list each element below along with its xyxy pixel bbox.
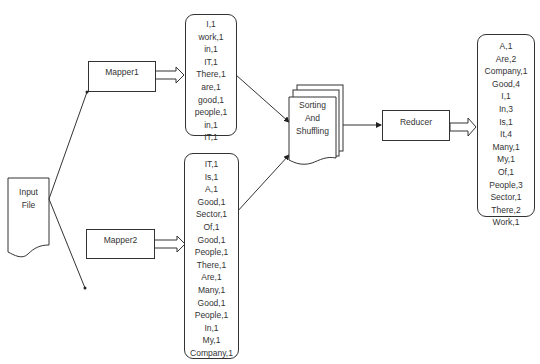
list-item: Are,2 — [496, 53, 516, 66]
list-item: There,2 — [491, 204, 520, 217]
list-item: Sector,1 — [196, 208, 227, 221]
list-item: In,3 — [499, 103, 513, 116]
block-arrow-reducer — [450, 118, 476, 136]
list-item: good,1 — [198, 94, 224, 107]
list-item: work,1 — [198, 31, 223, 44]
list-item: Sector,1 — [490, 191, 521, 204]
list-item: I,1 — [501, 90, 510, 103]
list-item: in,1 — [204, 43, 218, 56]
list-item: Is,1 — [499, 116, 513, 129]
mapper1-label: Mapper1 — [105, 67, 139, 77]
list-item: Good,1 — [198, 196, 226, 209]
mapper1-box: Mapper1 — [88, 61, 156, 92]
shuffle-label-line1: Sorting — [289, 99, 336, 112]
diagram-canvas — [0, 0, 540, 364]
input-file: Input File — [8, 186, 49, 212]
edge-input-to-mapper2 — [49, 199, 85, 288]
block-arrow-mapper1 — [155, 67, 184, 83]
list-item: IT,1 — [205, 158, 219, 171]
list-item: Of,1 — [203, 221, 219, 234]
list-item: There,1 — [197, 259, 226, 272]
list-item: It,4 — [500, 128, 512, 141]
list-item: IT,1 — [204, 56, 218, 69]
input-file-label-line1: Input — [8, 186, 49, 199]
list-item: In,1 — [204, 322, 218, 335]
list-item: Good,4 — [492, 78, 520, 91]
list-item: are,1 — [201, 81, 220, 94]
shuffle-label-line3: Shuffling — [289, 125, 336, 138]
list-item: A,1 — [205, 183, 218, 196]
edge-mapper1-list-to-shuffle — [236, 75, 289, 122]
reducer-label: Reducer — [400, 117, 432, 127]
shuffle-label-line2: And — [289, 112, 336, 125]
mapper2-output-list: IT,1 Is,1 A,1 Good,1 Sector,1 Of,1 Good,… — [184, 153, 239, 359]
list-item: There,1 — [196, 68, 225, 81]
list-item: People,1 — [195, 246, 229, 259]
list-item: I,1 — [206, 18, 215, 31]
list-item: Work,1 — [493, 216, 520, 229]
list-item: Good,1 — [198, 297, 226, 310]
reducer-box: Reducer — [382, 110, 450, 141]
list-item: Are,1 — [201, 271, 221, 284]
list-item: Good,1 — [198, 234, 226, 247]
list-item: A,1 — [500, 40, 513, 53]
list-item: Company,1 — [190, 347, 233, 360]
edge-input-to-mapper1 — [49, 92, 87, 199]
mapper1-output-list: I,1 work,1 in,1 IT,1 There,1 are,1 good,… — [185, 14, 237, 136]
list-item: My,1 — [497, 153, 515, 166]
list-item: Many,1 — [492, 141, 519, 154]
sorting-shuffling: Sorting And Shuffling — [289, 99, 336, 138]
mapper2-label: Mapper2 — [104, 235, 138, 245]
input-file-label-line2: File — [8, 199, 49, 212]
list-item: Company,1 — [485, 65, 528, 78]
list-item: People,1 — [195, 309, 229, 322]
list-item: IT,1 — [204, 131, 218, 144]
block-arrow-mapper2 — [154, 236, 185, 252]
list-item: People,3 — [489, 179, 523, 192]
list-item: Is,1 — [205, 171, 219, 184]
mapper2-box: Mapper2 — [86, 229, 155, 259]
edge-mapper2-list-to-shuffle — [236, 155, 289, 213]
list-item: My,1 — [203, 334, 221, 347]
reducer-output-list: A,1 Are,2 Company,1 Good,4 I,1 In,3 Is,1… — [477, 34, 535, 217]
list-item: people,1 — [195, 106, 228, 119]
list-item: Many,1 — [198, 284, 225, 297]
list-item: in,1 — [204, 119, 218, 132]
list-item: Of,1 — [498, 166, 514, 179]
